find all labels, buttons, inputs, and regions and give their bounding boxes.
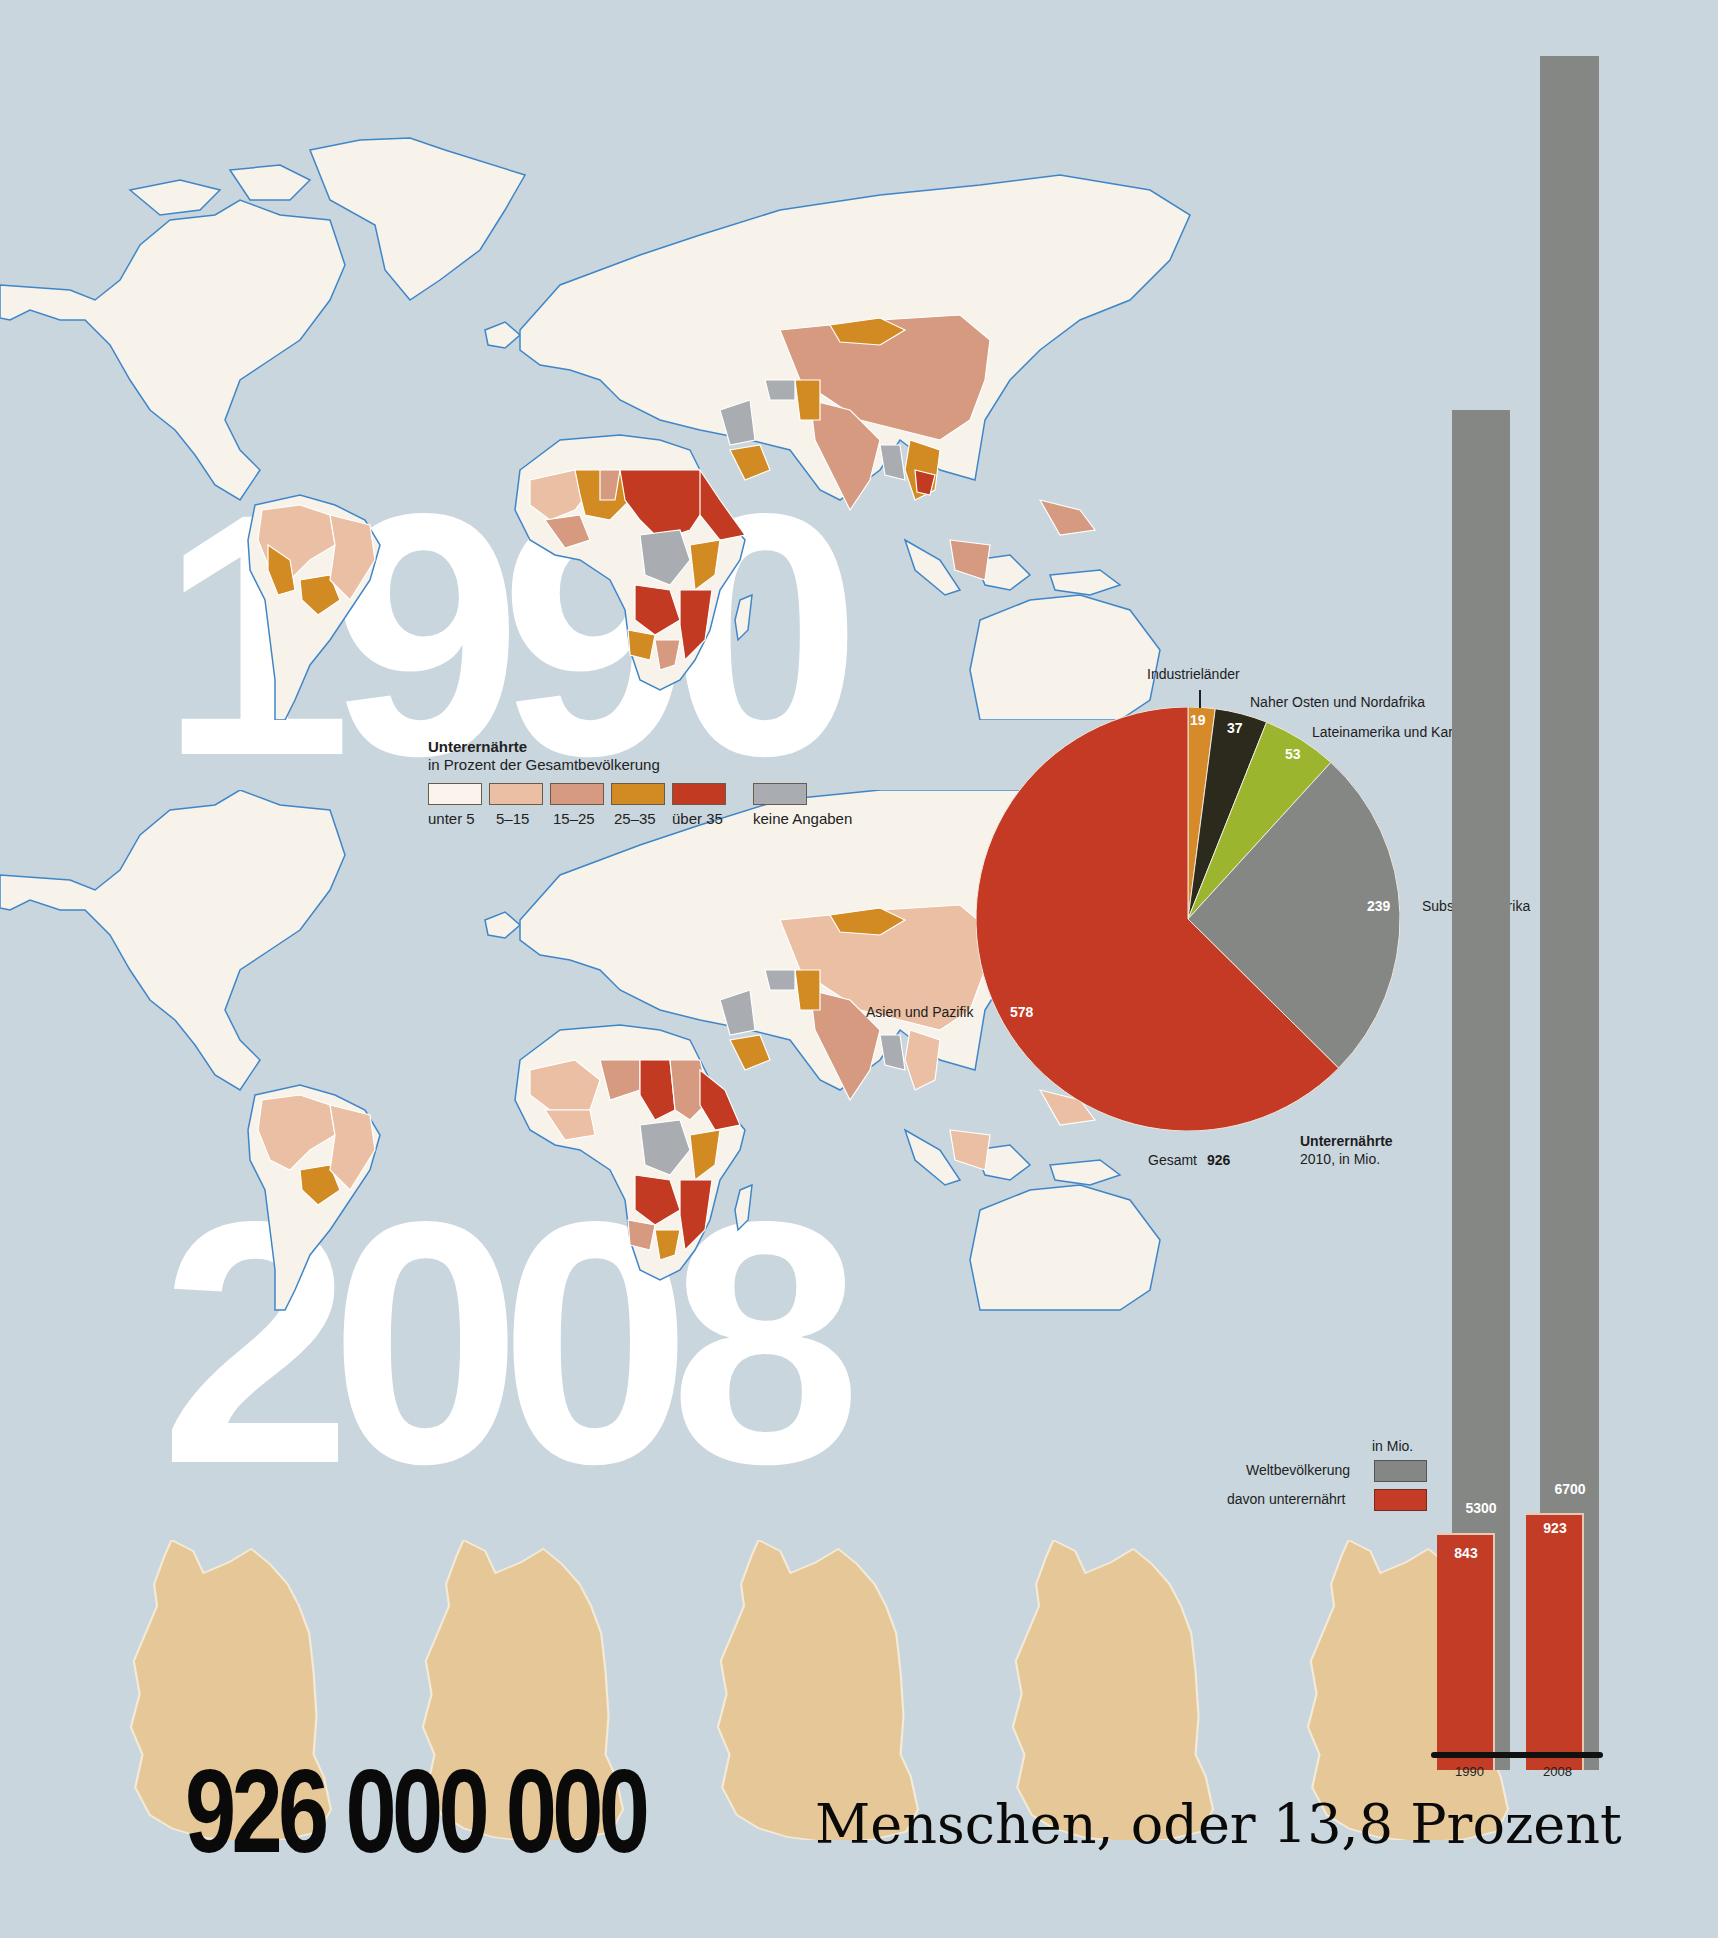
pie-label-industrielaender: Industrieländer [1147, 666, 1240, 682]
legend-label-15-25: 15–25 [553, 810, 595, 827]
bar-legend-undernourished-swatch [1374, 1489, 1427, 1511]
pie-value-naher-osten: 37 [1227, 720, 1243, 736]
headline-number: 926 000 000 [185, 1752, 645, 1870]
legend-label-keine-angaben: keine Angaben [753, 810, 852, 827]
legend-swatch-25-35 [611, 783, 665, 805]
legend-swatch-keine-angaben [753, 783, 807, 805]
bar-legend-population-swatch [1374, 1460, 1427, 1482]
pie-total-label: Gesamt [1148, 1152, 1197, 1168]
pie-caption: Unterernährte 2010, in Mio. [1300, 1132, 1393, 1168]
bar-legend-population-label: Weltbevölkerung [1246, 1462, 1350, 1478]
legend-label-5-15: 5–15 [496, 810, 529, 827]
pie-leader-line [1199, 690, 1201, 708]
map-legend: Unterernährte in Prozent der Gesamtbevöl… [428, 738, 878, 838]
pie-caption-title: Unterernährte [1300, 1132, 1393, 1150]
pie-chart [976, 707, 1400, 1131]
legend-label-25-35: 25–35 [614, 810, 656, 827]
pie-value-subsahara: 239 [1367, 898, 1390, 914]
pie-label-naher-osten: Naher Osten und Nordafrika [1250, 694, 1425, 710]
pie-value-industrielaender: 19 [1190, 712, 1206, 728]
bar-value-2008-population: 6700 [1540, 1481, 1600, 1497]
bar-axis-label-1990: 1990 [1455, 1764, 1484, 1779]
pie-caption-sub: 2010, in Mio. [1300, 1150, 1393, 1168]
pie-value-asien-pazifik: 578 [1010, 1004, 1033, 1020]
bar-legend-unit: in Mio. [1372, 1438, 1413, 1454]
bar-2008-undernourished [1526, 1513, 1584, 1770]
bar-axis-label-2008: 2008 [1543, 1764, 1572, 1779]
pie-value-lateinamerika: 53 [1285, 746, 1301, 762]
pie-label-lateinamerika: Lateinamerika und Karibik [1312, 724, 1474, 740]
bar-value-1990-population: 5300 [1451, 1500, 1511, 1516]
legend-label-unter-5: unter 5 [428, 810, 475, 827]
bar-1990-undernourished [1437, 1533, 1495, 1770]
map-legend-subtitle: in Prozent der Gesamtbevölkerung [428, 756, 878, 774]
bar-legend-undernourished-label: davon unterernährt [1227, 1491, 1345, 1507]
legend-swatch-unter-5 [428, 783, 482, 805]
legend-swatch-5-15 [489, 783, 543, 805]
map-legend-title: Unterernährte [428, 738, 878, 756]
world-map-1990 [0, 0, 1200, 720]
pie-label-asien-pazifik: Asien und Pazifik [866, 1004, 973, 1020]
legend-swatch-ueber-35 [672, 783, 726, 805]
headline-text: Menschen, oder 13,8 Prozent [815, 1798, 1622, 1852]
legend-label-ueber-35: über 35 [672, 810, 723, 827]
bar-value-1990-undernourished: 843 [1436, 1545, 1496, 1561]
pie-total-value: 926 [1207, 1152, 1230, 1168]
bar-axis-line [1431, 1752, 1603, 1758]
legend-swatch-15-25 [550, 783, 604, 805]
bar-value-2008-undernourished: 923 [1525, 1520, 1585, 1536]
pie-total: Gesamt 926 [1148, 1152, 1230, 1168]
